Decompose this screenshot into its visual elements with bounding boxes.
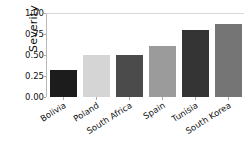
plot-area xyxy=(46,13,244,97)
y-tick-label: 0.50 xyxy=(0,51,44,60)
bar-spain[interactable] xyxy=(149,46,175,97)
bar-south-korea[interactable] xyxy=(215,24,241,97)
y-tick-mark xyxy=(43,97,46,98)
y-tick-label: 0.75 xyxy=(0,30,44,39)
y-tick-label: 1.00 xyxy=(0,9,44,18)
bar-poland[interactable] xyxy=(83,55,109,97)
bar-south-africa[interactable] xyxy=(116,55,142,97)
bar-bolivia[interactable] xyxy=(50,70,76,97)
bar-chart-figure: Severity 0.000.250.500.751.00 BoliviaPol… xyxy=(0,0,250,155)
y-tick-label: 0.25 xyxy=(0,72,44,81)
y-tick-label: 0.00 xyxy=(0,93,44,102)
bar-tunisia[interactable] xyxy=(182,30,208,97)
